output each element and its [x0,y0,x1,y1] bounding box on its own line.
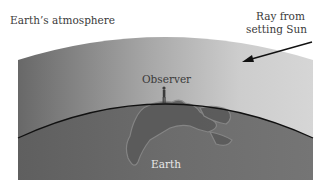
atmosphere-label: Earth’s atmosphere [10,14,115,26]
ray-label-line2: setting Sun [246,23,307,35]
observer-label: Observer [142,73,191,85]
ray-label-line1: Ray from [256,10,305,22]
earth-label: Earth [151,158,181,170]
